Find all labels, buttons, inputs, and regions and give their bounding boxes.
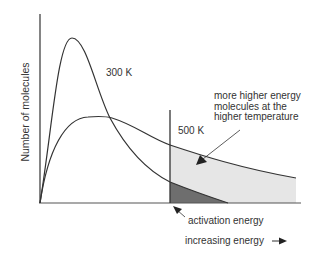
distribution-chart (0, 0, 320, 264)
curve-300k-label: 300 K (106, 67, 132, 78)
y-axis-label: Number of molecules (19, 62, 31, 161)
x-axis-label: increasing energy (185, 235, 264, 246)
annotation-arrow (203, 130, 240, 159)
right-arrowhead-icon (279, 238, 287, 245)
temperature-annotation: more higher energy molecules at the high… (214, 91, 301, 123)
annotation-line: higher temperature (214, 112, 301, 123)
activation-energy-label: activation energy (188, 215, 264, 226)
annotation-line: more higher energy (214, 91, 301, 102)
curve-500k-label: 500 K (178, 125, 204, 136)
